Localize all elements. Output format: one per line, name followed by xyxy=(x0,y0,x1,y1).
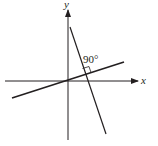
x-axis-label: x xyxy=(140,74,146,86)
y-axis-label: y xyxy=(63,0,69,10)
perpendicular-lines-diagram: x y 90° xyxy=(0,0,158,146)
angle-label: 90° xyxy=(83,53,98,65)
